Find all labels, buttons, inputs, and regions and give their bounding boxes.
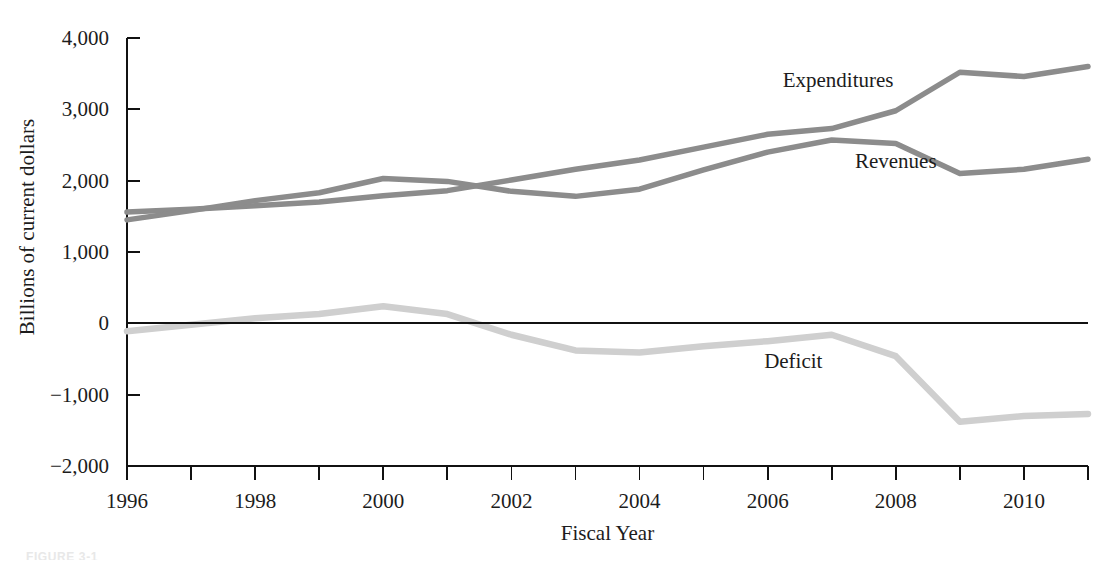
- x-tick-label-2002: 2002: [490, 489, 532, 513]
- x-axis-ticks: [127, 466, 1088, 480]
- x-axis-tick-labels: 19961998200020022004200620082010: [106, 489, 1045, 513]
- figure-container: 4,0003,0002,0001,0000−1,000−2,000 199619…: [0, 0, 1105, 561]
- series-lines: [127, 67, 1088, 422]
- y-tick-label-4000: 4,000: [62, 26, 109, 50]
- y-tick-label--1000: −1,000: [50, 383, 109, 407]
- y-tick-label-3000: 3,000: [62, 97, 109, 121]
- series-inline-labels: ExpendituresRevenuesDeficit: [764, 68, 936, 373]
- y-axis-tick-labels: 4,0003,0002,0001,0000−1,000−2,000: [50, 26, 109, 478]
- x-tick-label-2004: 2004: [619, 489, 662, 513]
- x-tick-label-2010: 2010: [1003, 489, 1045, 513]
- series-line-revenues: [127, 140, 1088, 220]
- x-tick-label-1996: 1996: [106, 489, 148, 513]
- y-tick-label-0: 0: [99, 311, 110, 335]
- axis-titles: Fiscal YearBillions of current dollars: [15, 119, 654, 545]
- line-chart: 4,0003,0002,0001,0000−1,000−2,000 199619…: [0, 0, 1105, 561]
- x-tick-label-2000: 2000: [362, 489, 404, 513]
- series-label-expenditures: Expenditures: [783, 68, 894, 92]
- y-tick-label-2000: 2,000: [62, 169, 109, 193]
- x-tick-label-1998: 1998: [234, 489, 276, 513]
- y-axis-title: Billions of current dollars: [15, 119, 39, 335]
- x-axis-title: Fiscal Year: [561, 521, 654, 545]
- x-tick-label-2008: 2008: [875, 489, 917, 513]
- series-label-revenues: Revenues: [855, 149, 937, 173]
- y-tick-label--2000: −2,000: [50, 454, 109, 478]
- x-tick-label-2006: 2006: [747, 489, 789, 513]
- y-axis-ticks: [127, 109, 140, 466]
- y-tick-label-1000: 1,000: [62, 240, 109, 264]
- series-label-deficit: Deficit: [764, 349, 822, 373]
- figure-caption-partial: FIGURE 3-1: [26, 551, 98, 560]
